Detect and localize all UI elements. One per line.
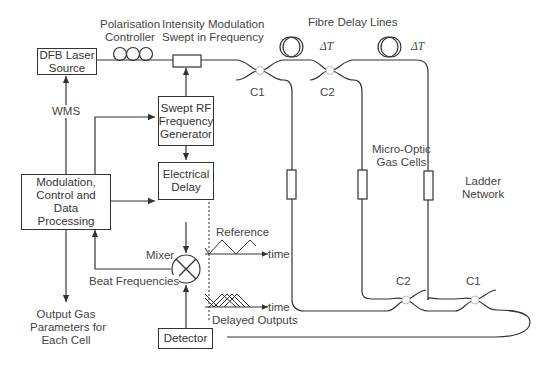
label-line: Intensity Modulation (162, 18, 258, 31)
coupler-c2-top-label: C2 (320, 86, 335, 99)
dfb-laser-source-box: DFB Laser Source (37, 48, 97, 75)
label-line: Polarisation (100, 18, 160, 31)
time-axis-label-1: time (268, 248, 290, 261)
label-line: Each Cell (30, 334, 102, 347)
label-line: Network (462, 188, 504, 201)
label-line: Micro-Optic (372, 143, 431, 156)
detector-box: Detector (158, 328, 213, 349)
time-axis-label-2: time (268, 301, 290, 314)
mixer-label: Mixer (146, 249, 174, 262)
label-line: Gas Cells (372, 156, 431, 169)
beat-frequencies-label: Beat Frequencies (89, 275, 179, 288)
coupler-c1-top-label: C1 (250, 86, 265, 99)
processing-box: Modulation, Control and Data Processing (21, 174, 111, 230)
label-line: Parameters for (30, 321, 102, 334)
label-line: Output Gas (30, 308, 102, 321)
coupler-c2-bottom-label: C2 (396, 275, 411, 288)
diagram-canvas: DFB Laser Source Swept RF Frequency Gene… (0, 0, 545, 366)
label-line: Controller (100, 31, 160, 44)
label-line: Ladder (462, 175, 504, 188)
delta-t-label-1: ΔT (320, 40, 333, 52)
ladder-network-label: Ladder Network (462, 175, 504, 201)
wms-label: WMS (52, 105, 80, 118)
swept-rf-generator-box: Swept RF Frequency Generator (158, 96, 214, 146)
polarisation-controller-label: Polarisation Controller (100, 18, 160, 44)
electrical-delay-box: Electrical Delay (158, 162, 214, 200)
output-gas-parameters-label: Output Gas Parameters for Each Cell (30, 308, 102, 347)
reference-label: Reference (216, 226, 269, 239)
label-line: Swept in Frequency (162, 31, 258, 44)
delayed-outputs-label: Delayed Outputs (212, 314, 298, 327)
intensity-modulation-label: Intensity Modulation Swept in Frequency (162, 18, 258, 44)
coupler-c1-bottom-label: C1 (466, 275, 481, 288)
delta-t-label-2: ΔT (411, 40, 424, 52)
fibre-delay-lines-label: Fibre Delay Lines (308, 16, 397, 29)
micro-optic-gas-cells-label: Micro-Optic Gas Cells (372, 143, 431, 169)
